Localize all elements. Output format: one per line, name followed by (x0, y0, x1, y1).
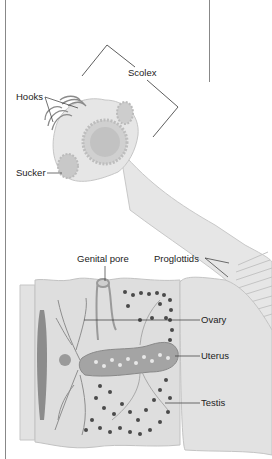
label-scolex: Scolex (128, 68, 157, 78)
label-genital-pore: Genital pore (77, 254, 129, 264)
sucker-left (58, 154, 78, 178)
label-hooks: Hooks (16, 92, 43, 102)
sucker-right (117, 102, 133, 124)
label-proglottids: Proglottids (154, 254, 199, 264)
scolex-bracket-lower (147, 80, 178, 137)
label-sucker: Sucker (16, 168, 46, 178)
label-testis: Testis (201, 398, 225, 408)
label-uterus: Uterus (201, 351, 229, 361)
label-ovary: Ovary (201, 315, 226, 325)
